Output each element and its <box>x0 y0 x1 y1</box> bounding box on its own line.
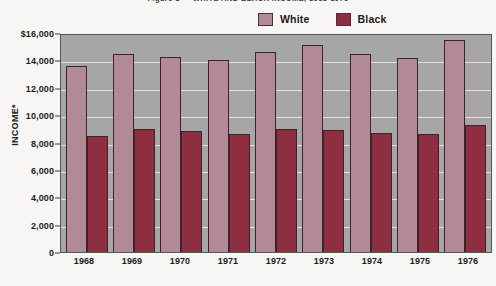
bar-black-1973 <box>323 130 344 253</box>
bar-black-1975 <box>418 134 439 252</box>
x-tick-label-1972: 1972 <box>254 256 298 266</box>
bar-black-1974 <box>371 133 392 252</box>
x-tick-label-1975: 1975 <box>398 256 442 266</box>
x-tick-label-1976: 1976 <box>446 256 490 266</box>
y-tick-label: $16,000 <box>21 29 54 39</box>
bar-group <box>397 35 439 252</box>
x-tick-label-1974: 1974 <box>350 256 394 266</box>
plot-area <box>60 34 492 253</box>
x-tick-label-1973: 1973 <box>302 256 346 266</box>
bar-white-1974 <box>350 54 371 252</box>
bar-black-1976 <box>465 125 486 252</box>
legend-entry-white: White <box>258 13 310 26</box>
y-tick-label: 12,000 <box>26 84 54 94</box>
bar-white-1970 <box>160 57 181 252</box>
y-tick-label: 14,000 <box>26 56 54 66</box>
y-tick-label: 2,000 <box>31 221 54 231</box>
bar-white-1971 <box>208 60 229 252</box>
bar-group <box>444 35 486 252</box>
y-axis-tick-labels: $16,00014,00012,00010,0008,0006,0004,000… <box>0 0 58 286</box>
bar-group <box>350 35 392 252</box>
figure-chart: Figure 1 — WHITE AND BLACK INCOME, 1968-… <box>0 0 496 286</box>
y-tick-label: 0 <box>49 248 54 258</box>
y-tick-label: 8,000 <box>31 139 54 149</box>
x-tick-label-1969: 1969 <box>110 256 154 266</box>
bar-group <box>113 35 155 252</box>
bars-layer <box>61 35 491 252</box>
bar-white-1968 <box>66 66 87 252</box>
bar-black-1969 <box>134 129 155 252</box>
x-axis-tick-labels: 196819691970197119721973197419751976 <box>60 256 492 272</box>
bar-group <box>66 35 108 252</box>
legend-swatch-white <box>258 13 273 26</box>
bar-group <box>160 35 202 252</box>
bar-group <box>208 35 250 252</box>
bar-white-1975 <box>397 58 418 252</box>
chart-legend: White Black <box>258 11 387 27</box>
bar-black-1970 <box>181 131 202 252</box>
bar-white-1969 <box>113 54 134 252</box>
y-tick-label: 6,000 <box>31 166 54 176</box>
y-tick-label: 10,000 <box>26 111 54 121</box>
legend-entry-black: Black <box>336 13 387 26</box>
legend-swatch-black <box>336 13 351 26</box>
bar-black-1972 <box>276 129 297 252</box>
bar-white-1973 <box>302 45 323 252</box>
bar-black-1971 <box>229 134 250 252</box>
bar-white-1976 <box>444 40 465 252</box>
x-tick-label-1971: 1971 <box>206 256 250 266</box>
bar-group <box>302 35 344 252</box>
bar-group <box>255 35 297 252</box>
bar-white-1972 <box>255 52 276 252</box>
y-tick-label: 4,000 <box>31 193 54 203</box>
chart-title: Figure 1 — WHITE AND BLACK INCOME, 1968-… <box>0 0 496 5</box>
legend-label-white: White <box>280 13 310 25</box>
legend-label-black: Black <box>358 13 387 25</box>
bar-black-1968 <box>87 136 108 252</box>
x-tick-label-1970: 1970 <box>158 256 202 266</box>
x-tick-label-1968: 1968 <box>62 256 106 266</box>
